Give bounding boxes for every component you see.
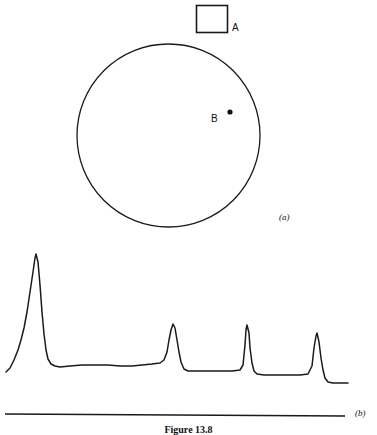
panel-b-chromatogram xyxy=(0,240,377,435)
panel-a-diagram: A B xyxy=(0,0,377,240)
baseline-axis-rule xyxy=(5,414,345,416)
panel-a-graphics xyxy=(0,0,377,240)
label-a: A xyxy=(232,23,239,33)
figure-page: A B (a) (b) Figure 13.8 xyxy=(0,0,377,435)
panel-tag-b: (b) xyxy=(355,409,366,418)
circle-shape xyxy=(77,44,260,227)
signal-trace xyxy=(6,254,348,383)
chromatogram-graphics xyxy=(0,240,377,435)
square-shape-a xyxy=(197,6,228,33)
figure-caption: Figure 13.8 xyxy=(0,425,377,435)
panel-tag-a: (a) xyxy=(279,213,290,222)
point-marker-b xyxy=(227,109,232,114)
label-b: B xyxy=(211,114,218,124)
